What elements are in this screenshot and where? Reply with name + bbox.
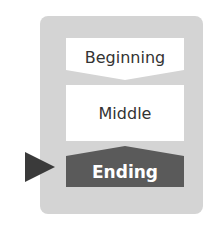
ending-label: Ending (66, 162, 184, 182)
beginning-label: Beginning (66, 48, 184, 68)
middle-label: Middle (66, 104, 184, 124)
triangle-right-icon (25, 152, 56, 183)
